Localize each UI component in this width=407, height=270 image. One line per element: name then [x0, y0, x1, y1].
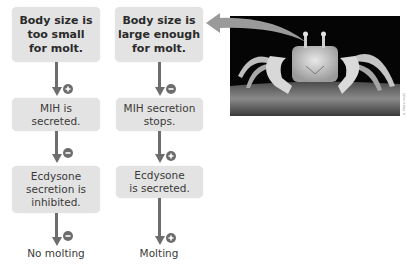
- arrow-head: [52, 154, 62, 163]
- arrow-shaft: [158, 131, 161, 155]
- minus-sign-icon: [166, 84, 176, 94]
- arrow-shaft: [55, 62, 58, 88]
- plus-sign-icon: [166, 233, 176, 243]
- node-label: Ecdysone is secreted.: [129, 169, 190, 195]
- arrow-head: [155, 87, 165, 96]
- arrow-shaft: [158, 198, 161, 237]
- node-label: MIH secretion stops.: [124, 102, 196, 128]
- outcome-molting: Molting: [114, 247, 204, 259]
- arrow-head: [155, 236, 165, 245]
- node-mih-secreted: MIH is secreted.: [12, 98, 100, 131]
- node-mih-stops: MIH secretion stops.: [116, 98, 203, 131]
- minus-sign-icon: [63, 231, 73, 241]
- plus-sign-icon: [63, 84, 73, 94]
- node-body-large-enough: Body size is large enough for molt.: [115, 7, 203, 62]
- node-ecdysone-inhibited: Ecdysone secretion is inhibited.: [12, 166, 100, 213]
- curved-pointer-arrow: [204, 12, 309, 52]
- arrow-head: [52, 237, 62, 246]
- photo-credit: © Photo credit: [402, 16, 406, 116]
- arrow-shaft: [55, 131, 58, 155]
- node-label: MIH is secreted.: [32, 102, 81, 128]
- arrow-head: [155, 154, 165, 163]
- node-body-too-small: Body size is too small for molt.: [12, 7, 100, 62]
- node-label: Body size is too small for molt.: [19, 14, 92, 56]
- arrow-shaft: [158, 62, 161, 88]
- arrow-head: [52, 87, 62, 96]
- plus-sign-icon: [166, 151, 176, 161]
- node-label: Body size is large enough for molt.: [118, 14, 200, 56]
- node-ecdysone-secreted: Ecdysone is secreted.: [116, 166, 203, 198]
- arrow-shaft: [55, 213, 58, 238]
- node-label: Ecdysone secretion is inhibited.: [26, 170, 86, 209]
- outcome-no-molting: No molting: [11, 247, 101, 259]
- minus-sign-icon: [63, 148, 73, 158]
